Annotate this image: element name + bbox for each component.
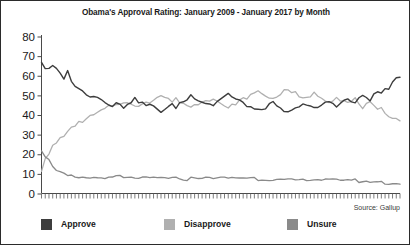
chart-title: Obama's Approval Rating: January 2009 - … xyxy=(1,8,410,17)
y-tick-label: 0 xyxy=(29,188,35,200)
y-tick-label: 40 xyxy=(22,109,35,121)
y-tick-label: 60 xyxy=(22,70,35,82)
y-tick-label: 80 xyxy=(22,31,35,43)
y-axis-tick-labels: 01020304050607080 xyxy=(22,31,35,200)
y-tick-label: 70 xyxy=(22,50,35,62)
y-axis-ticks xyxy=(38,37,42,194)
legend-label-disapprove: Disapprove xyxy=(184,219,231,229)
y-tick-label: 30 xyxy=(22,129,35,141)
legend-swatch-approve xyxy=(41,219,52,230)
legend-item-approve[interactable]: Approve xyxy=(41,213,96,235)
chart-legend: Approve Disapprove Unsure xyxy=(1,213,410,235)
source-note: Source: Gallup xyxy=(354,204,400,211)
y-tick-label: 50 xyxy=(22,90,35,102)
plot-area: 01020304050607080 xyxy=(1,29,410,201)
line-chart-svg: 01020304050607080 xyxy=(1,29,410,201)
legend-item-disapprove[interactable]: Disapprove xyxy=(164,213,231,235)
legend-label-approve: Approve xyxy=(61,219,96,229)
y-tick-label: 10 xyxy=(22,168,35,180)
legend-swatch-disapprove xyxy=(164,219,175,230)
y-tick-label: 20 xyxy=(22,148,35,160)
series-line-approve xyxy=(42,62,401,112)
legend-swatch-unsure xyxy=(287,219,298,230)
x-axis-ticks xyxy=(42,194,401,199)
series-line-disapprove xyxy=(42,90,401,172)
legend-label-unsure: Unsure xyxy=(307,219,337,229)
legend-item-unsure[interactable]: Unsure xyxy=(287,213,337,235)
chart-container: Obama's Approval Rating: January 2009 - … xyxy=(0,0,410,245)
series-line-unsure xyxy=(42,151,401,184)
